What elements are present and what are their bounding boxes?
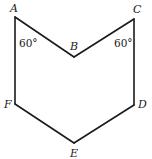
- edge-ef: [15, 104, 74, 143]
- vertex-label-d: D: [137, 98, 147, 111]
- edge-de: [74, 105, 134, 143]
- angle-label-c: 60°: [114, 37, 133, 49]
- hexagon-edges: [15, 17, 134, 143]
- vertex-label-a: A: [9, 2, 18, 15]
- angle-label-a: 60°: [19, 37, 38, 49]
- vertex-labels: ABCDEF: [3, 2, 147, 159]
- vertex-label-f: F: [3, 98, 12, 111]
- hexagon-diagram: ABCDEF 60°60°: [0, 0, 152, 159]
- vertex-label-e: E: [69, 147, 78, 159]
- vertex-label-c: C: [133, 3, 142, 16]
- vertex-label-b: B: [69, 40, 78, 53]
